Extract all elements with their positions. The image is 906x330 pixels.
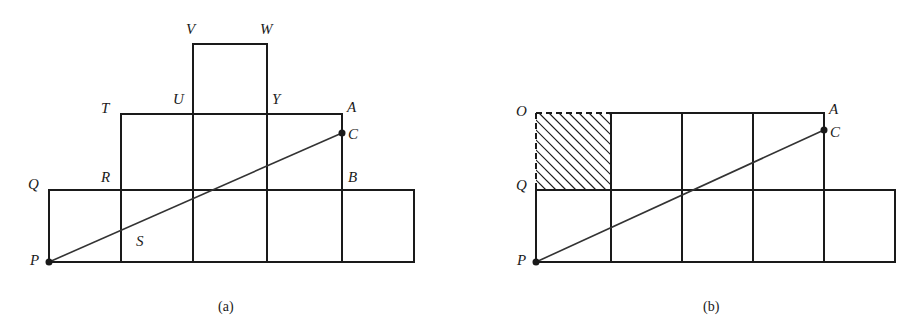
hatch-line [579,113,656,190]
hatch-line [649,113,726,190]
hatch-line [589,113,666,190]
label-O-b: O [516,103,527,119]
hatched-square [459,113,756,190]
point-P [46,259,53,266]
caption-b: (b) [703,299,720,315]
figure-b: P Q O A C (b) [459,101,895,315]
label-A: A [346,99,357,115]
caption-a: (a) [218,299,234,315]
hatch-line [659,113,736,190]
hatch-line [629,113,706,190]
point-C-b [821,127,828,134]
label-A-b: A [828,101,839,117]
label-P-b: P [516,252,526,268]
label-Y: Y [272,91,282,107]
label-W: W [260,21,274,37]
segment-PC-b [536,130,824,262]
bottom-row-outline [49,190,414,262]
hatch-line [539,113,616,190]
hatch-line [499,113,576,190]
segment-PC [49,133,342,262]
label-B: B [348,169,357,185]
label-Q-b: Q [516,177,527,193]
label-U: U [173,91,185,107]
hatch-line [569,113,646,190]
label-C: C [348,126,359,142]
point-C [339,130,346,137]
hatch-line [469,113,546,190]
hatch-line [609,113,686,190]
hatch-line [529,113,606,190]
label-Q: Q [28,176,39,192]
label-T: T [101,100,111,116]
label-P: P [29,252,39,268]
label-R: R [100,169,110,185]
label-S: S [136,233,144,249]
point-P-b [533,259,540,266]
hatch-line [619,113,696,190]
hatch-line [669,113,746,190]
bottom-row-outline-b [536,190,895,262]
label-C-b: C [830,124,841,140]
label-V: V [186,21,197,37]
hatch-line [639,113,716,190]
hatch-line [519,113,596,190]
hatch-line [489,113,566,190]
hatch-line [549,113,626,190]
figure-a: P Q R S T U V W Y A C B (a) [28,21,414,315]
hatch-line [559,113,636,190]
figure-canvas: P Q R S T U V W Y A C B (a) [0,0,906,330]
